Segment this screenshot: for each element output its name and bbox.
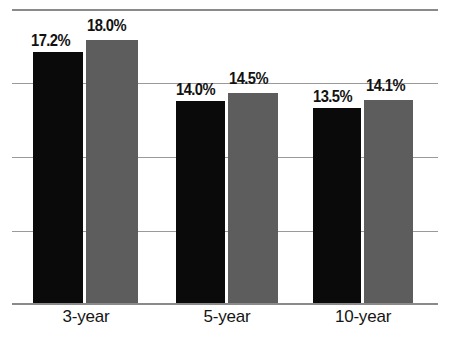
- value-label-3-year-dark: 17.2%: [31, 33, 70, 49]
- bar-3-year-dark: [33, 52, 83, 303]
- category-label-10-year: 10-year: [313, 308, 413, 325]
- category-label-3-year: 3-year: [36, 308, 136, 325]
- value-label-5-year-dark: 14.0%: [176, 82, 215, 98]
- value-label-3-year-light: 18.0%: [87, 18, 126, 34]
- bar-5-year-light: [228, 93, 278, 303]
- value-label-10-year-dark: 13.5%: [313, 89, 352, 105]
- category-axis: 3-year 5-year 10-year: [0, 308, 449, 343]
- plot-area: 17.2% 18.0% 14.0% 14.5% 13.5% 14.1%: [0, 0, 449, 310]
- value-label-5-year-light: 14.5%: [229, 71, 268, 87]
- bar-5-year-dark: [176, 101, 225, 303]
- category-label-5-year: 5-year: [177, 308, 277, 325]
- value-label-10-year-light: 14.1%: [366, 78, 405, 94]
- gridline-top: [12, 9, 438, 11]
- bar-3-year-light: [86, 40, 138, 303]
- bar-10-year-dark: [313, 108, 361, 303]
- bar-chart: 17.2% 18.0% 14.0% 14.5% 13.5% 14.1% 3-ye…: [0, 0, 449, 343]
- bar-10-year-light: [364, 100, 413, 303]
- gridline-baseline: [12, 303, 438, 305]
